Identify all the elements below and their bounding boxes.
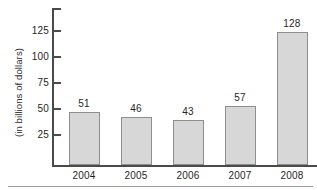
bar-2007[interactable]	[225, 106, 256, 165]
y-tick-mark	[53, 82, 61, 84]
y-axis-title: (in billions of dollars)	[13, 18, 24, 168]
bar-2004[interactable]	[69, 112, 100, 165]
y-tick-label: 25	[9, 129, 49, 140]
bar-value-label-2007: 57	[217, 92, 263, 103]
y-axis-top-cap	[52, 8, 61, 10]
bar-value-label-2004: 51	[61, 98, 107, 109]
x-tick-label-2008: 2008	[265, 170, 317, 181]
x-tick-label-2005: 2005	[109, 170, 163, 181]
bar-value-label-2006: 43	[165, 106, 211, 117]
x-tick-label-2004: 2004	[57, 170, 111, 181]
footer-rule	[8, 186, 313, 187]
y-tick-label: 100	[9, 51, 49, 62]
y-tick-label: 125	[9, 25, 49, 36]
y-tick-label: 75	[9, 77, 49, 88]
y-tick-mark	[53, 56, 61, 58]
x-tick-label-2007: 2007	[213, 170, 267, 181]
y-tick-label: 50	[9, 103, 49, 114]
bar-value-label-2008: 128	[269, 18, 315, 29]
bar-2005[interactable]	[121, 117, 152, 165]
bar-2008[interactable]	[277, 32, 308, 165]
x-axis-line	[52, 165, 317, 167]
bar-chart-figure: (in billions of dollars) 25 50 75 100 12…	[0, 0, 317, 190]
x-tick-label-2006: 2006	[161, 170, 215, 181]
cropped-title-ghost	[150, 0, 315, 7]
y-tick-mark	[53, 134, 61, 136]
bar-2006[interactable]	[173, 120, 204, 165]
y-tick-mark	[53, 108, 61, 110]
bar-value-label-2005: 46	[113, 103, 159, 114]
y-tick-mark	[53, 30, 61, 32]
